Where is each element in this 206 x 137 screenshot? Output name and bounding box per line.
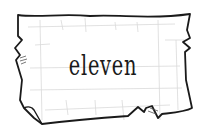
card-word: eleven <box>29 50 177 82</box>
parchment-card: eleven <box>0 0 206 137</box>
